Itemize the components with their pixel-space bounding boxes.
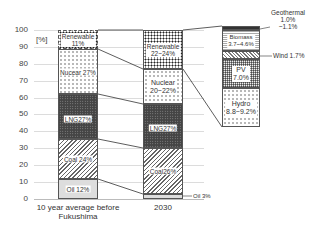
detail-hydro: Hydro8.8~9.2% [222,88,260,127]
geothermal-label: Geothermal1.0%~1.1% [268,9,308,30]
wind-label: Wind 1.7% [273,52,304,59]
bar1-oil: Oil 12% [58,179,98,199]
x-label-before-fukushima: 10 year average beforeFukushima [28,203,128,221]
bar2-oil [143,194,183,199]
bar2-coal: Coal26% [143,148,183,194]
bar1-coal: Coal 24% [58,139,98,179]
bar2-nuclear: Nuclear20~22% [143,69,183,104]
bar1-nuclear: Nucear 27% [58,49,98,94]
bar1-renewable: Renewable11% [58,30,98,49]
bar2-oil-label: Oil 3% [193,193,211,200]
detail-biomass: Biomass3.7~4.6% [222,30,260,51]
bar2-lng: LNG27% [143,104,183,148]
detail-pv: PV7.0% [222,59,260,88]
x-label-2030: 2030 [143,203,183,212]
bar1-lng: LNG27% [58,94,98,139]
bar2-renewable: Renewable22~24% [143,30,183,69]
detail-wind [222,51,260,59]
